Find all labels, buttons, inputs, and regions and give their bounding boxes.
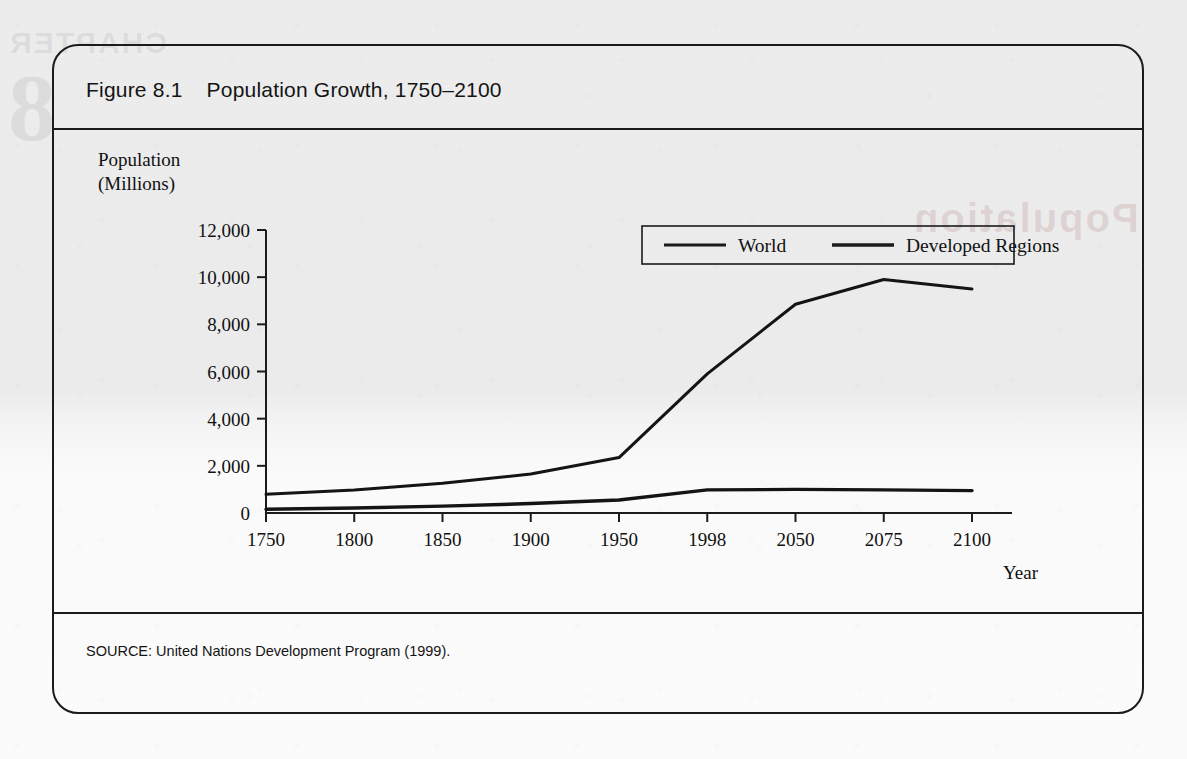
legend-label-1: World xyxy=(738,235,787,256)
x-tick-label: 1950 xyxy=(600,529,638,550)
chart-area: Population(Millions)02,0004,0006,0008,00… xyxy=(52,130,1144,612)
y-tick-label: 12,000 xyxy=(198,220,250,241)
y-tick-label: 4,000 xyxy=(207,409,250,430)
y-tick-label: 6,000 xyxy=(207,362,250,383)
y-axis-title-line1: Population xyxy=(98,149,181,170)
x-tick-label: 1998 xyxy=(688,529,726,550)
population-growth-line-chart: Population(Millions)02,0004,0006,0008,00… xyxy=(52,130,1144,612)
series-line-world xyxy=(266,280,972,495)
figure-number: Figure 8.1 xyxy=(86,78,183,101)
y-tick-label: 2,000 xyxy=(207,456,250,477)
legend-label-2: Developed Regions xyxy=(906,235,1059,256)
figure-source: SOURCE: United Nations Development Progr… xyxy=(86,643,450,659)
figure-title-text: Population Growth, 1750–2100 xyxy=(207,78,502,101)
series-line-developed-regions xyxy=(266,489,972,509)
y-tick-label: 8,000 xyxy=(207,314,250,335)
y-axis-title-line2: (Millions) xyxy=(98,173,175,195)
x-tick-label: 1800 xyxy=(335,529,373,550)
figure-title: Figure 8.1Population Growth, 1750–2100 xyxy=(86,78,502,102)
watermark-chapter-number: 8 xyxy=(6,62,56,153)
y-tick-label: 0 xyxy=(241,503,251,524)
source-divider xyxy=(52,612,1144,614)
y-tick-label: 10,000 xyxy=(198,267,250,288)
x-tick-label: 2075 xyxy=(865,529,903,550)
x-tick-label: 1900 xyxy=(512,529,550,550)
x-tick-label: 1750 xyxy=(247,529,285,550)
x-tick-label: 2100 xyxy=(953,529,991,550)
x-tick-label: 2050 xyxy=(777,529,815,550)
x-tick-label: 1850 xyxy=(424,529,462,550)
x-axis-title: Year xyxy=(1003,562,1039,583)
